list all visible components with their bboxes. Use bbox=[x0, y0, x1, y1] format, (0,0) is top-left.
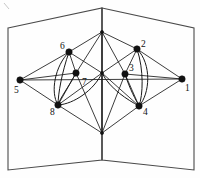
graph-diagram: 12345678 bbox=[0, 0, 200, 178]
vertex-label-6: 6 bbox=[60, 41, 65, 51]
vertex-8[interactable] bbox=[55, 102, 61, 108]
vertex-label-1: 1 bbox=[185, 83, 190, 93]
spine-top-junction bbox=[100, 30, 103, 33]
graph-edge-2-1 bbox=[137, 49, 182, 79]
scan-artifact-group bbox=[4, 3, 9, 9]
spine-center-junction bbox=[100, 71, 103, 74]
vertex-label-5: 5 bbox=[14, 85, 19, 95]
vertex-3[interactable] bbox=[122, 71, 128, 77]
right-panel-outline bbox=[102, 8, 194, 170]
vertex-4[interactable] bbox=[136, 103, 142, 109]
vertex-label-7: 7 bbox=[82, 77, 87, 87]
spine-bottom-junction bbox=[100, 131, 103, 134]
vertex-5[interactable] bbox=[17, 77, 23, 83]
vertex-6[interactable] bbox=[66, 49, 72, 55]
graph-edge-6-center bbox=[69, 52, 102, 73]
graph-arc-2-4 bbox=[137, 49, 142, 106]
graph-edge-5-6 bbox=[20, 52, 69, 80]
vertex-7[interactable] bbox=[73, 70, 79, 76]
graph-edge-8-center bbox=[58, 73, 102, 105]
graph-edge-8-bottom bbox=[58, 105, 102, 133]
vertex-label-3: 3 bbox=[129, 63, 134, 73]
left-panel-outline bbox=[8, 8, 102, 170]
graph-edge-2-top bbox=[102, 32, 137, 49]
vertex-label-4: 4 bbox=[143, 107, 148, 117]
graph-vertices bbox=[17, 30, 185, 134]
vertex-label-8: 8 bbox=[50, 107, 55, 117]
graph-edge-3-1 bbox=[125, 74, 182, 79]
graph-edge-5-7 bbox=[20, 73, 76, 80]
graph-edge-6-top bbox=[69, 32, 102, 52]
graph-edge-5-8 bbox=[20, 80, 58, 105]
graph-edge-3-top bbox=[102, 32, 125, 74]
figure-container: 12345678 bbox=[0, 0, 200, 178]
scan-artifact-mark bbox=[4, 3, 9, 9]
vertex-2[interactable] bbox=[134, 46, 140, 52]
graph-edge-4-1 bbox=[139, 79, 182, 106]
graph-edge-4-center bbox=[102, 73, 139, 106]
vertex-label-2: 2 bbox=[141, 39, 146, 49]
graph-edge-7-top bbox=[76, 32, 102, 73]
graph-straight-edges bbox=[20, 32, 182, 133]
graph-edge-5-1 bbox=[20, 79, 182, 80]
vertex-1[interactable] bbox=[179, 76, 185, 82]
graph-arc-6-8 bbox=[58, 52, 69, 105]
